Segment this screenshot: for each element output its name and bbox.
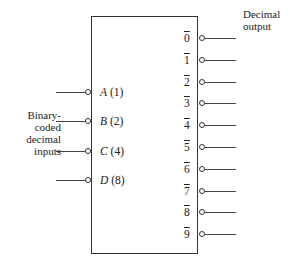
output-wire-5: [205, 147, 236, 148]
output-wire-4: [205, 125, 236, 126]
inversion-bubble-icon: [85, 118, 91, 124]
output-pin-0: 0: [184, 32, 190, 44]
input-pin-d: D (8): [100, 174, 125, 186]
decoder-block: [91, 16, 198, 254]
input-wire-a: [56, 92, 86, 93]
output-pin-1: 1: [184, 54, 190, 66]
output-wire-1: [205, 60, 236, 61]
output-pin-9: 9: [184, 228, 190, 240]
output-pin-7: 7: [184, 185, 190, 197]
input-label: Binary- coded decimal inputs: [17, 109, 61, 157]
input-wire-d: [56, 180, 86, 181]
output-pin-5: 5: [184, 141, 190, 153]
output-wire-9: [205, 234, 236, 235]
output-label: Decimal output: [243, 8, 280, 32]
input-pin-c: C (4): [100, 145, 124, 157]
output-pin-2: 2: [184, 76, 190, 88]
output-wire-3: [205, 103, 236, 104]
output-wire-8: [205, 212, 236, 213]
output-wire-2: [205, 82, 236, 83]
output-pin-8: 8: [184, 206, 190, 218]
inversion-bubble-icon: [85, 89, 91, 95]
output-wire-6: [205, 169, 236, 170]
output-pin-3: 3: [184, 97, 190, 109]
inversion-bubble-icon: [85, 148, 91, 154]
input-pin-a: A (1): [100, 86, 123, 98]
inversion-bubble-icon: [85, 177, 91, 183]
input-pin-b: B (2): [100, 115, 123, 127]
output-pin-4: 4: [184, 119, 190, 131]
output-wire-7: [205, 191, 236, 192]
output-pin-6: 6: [184, 163, 190, 175]
output-wire-0: [205, 38, 236, 39]
